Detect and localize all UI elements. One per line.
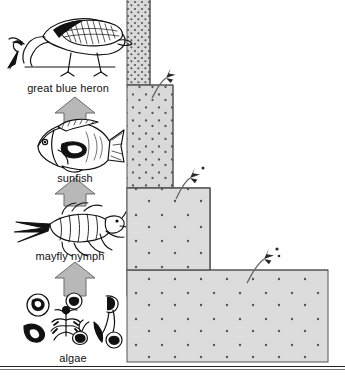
bar-level-algae [127, 270, 328, 362]
page-divider-rule-secondary [0, 369, 345, 370]
diagram-canvas: great blue heron [0, 0, 345, 377]
block-arrow-algae-to-mayfly [55, 262, 95, 296]
label-mayfly-nymph: mayfly nymph [14, 250, 126, 262]
sunfish-icon [28, 118, 126, 174]
page-divider-rule [0, 366, 345, 367]
algae-icon [14, 292, 126, 350]
label-sunfish: sunfish [20, 172, 130, 184]
label-great-blue-heron: great blue heron [8, 82, 128, 94]
bar-level-sunfish [127, 85, 173, 188]
heron-icon [5, 6, 133, 82]
label-algae: algae [28, 352, 118, 364]
